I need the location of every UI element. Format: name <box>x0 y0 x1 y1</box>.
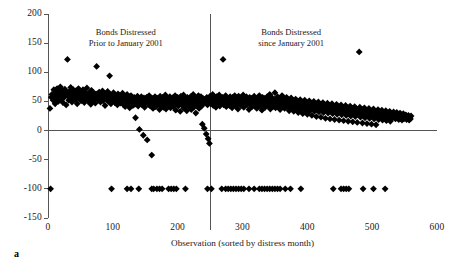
y-axis-tick-label: -100 <box>0 183 42 193</box>
y-axis-tick-label: 100 <box>0 66 42 76</box>
data-point <box>144 136 151 143</box>
y-axis-tick-label: 0 <box>0 125 42 135</box>
plot-annotation: Bonds DistressedPrior to January 2001 <box>66 27 186 49</box>
panel-letter: a <box>14 248 19 259</box>
data-point <box>330 185 337 192</box>
x-axis-tick-label: 0 <box>28 222 68 232</box>
data-point <box>135 185 142 192</box>
x-axis-title: Observation (sorted by distress month) <box>48 238 437 248</box>
y-axis-tick-label: 50 <box>0 95 42 105</box>
data-point <box>132 114 139 121</box>
y-axis-tick-label: -50 <box>0 154 42 164</box>
x-axis-tick-label: 200 <box>158 222 198 232</box>
data-point <box>382 185 389 192</box>
plot-annotation: Bonds Distressedsince January 2001 <box>231 27 351 49</box>
data-point <box>106 72 113 79</box>
data-point <box>136 126 143 133</box>
data-point <box>356 48 363 55</box>
data-point <box>108 185 115 192</box>
data-point <box>370 185 377 192</box>
data-point <box>148 152 155 159</box>
data-point <box>208 185 215 192</box>
x-axis-tick-label: 300 <box>223 222 263 232</box>
data-point <box>182 185 189 192</box>
data-point <box>128 185 135 192</box>
data-point <box>93 63 100 70</box>
y-axis-tick-label: 150 <box>0 37 42 47</box>
y-axis-tick-label: -150 <box>0 212 42 222</box>
y-axis-tick-label: 200 <box>0 8 42 18</box>
plot-annotation-line1: Bonds Distressed <box>231 27 351 38</box>
x-axis-tick-label: 500 <box>352 222 392 232</box>
data-point-group <box>47 48 415 192</box>
plot-annotation-line2: since January 2001 <box>231 38 351 49</box>
data-point <box>287 185 294 192</box>
x-axis-tick-label: 400 <box>287 222 327 232</box>
plot-annotation-line1: Bonds Distressed <box>66 27 186 38</box>
data-point <box>64 56 71 63</box>
data-point <box>220 56 227 63</box>
data-point <box>297 185 304 192</box>
data-point <box>360 185 367 192</box>
plot-annotation-line2: Prior to January 2001 <box>66 38 186 49</box>
x-axis-tick-label: 600 <box>417 222 449 232</box>
x-axis-tick-label: 100 <box>93 222 133 232</box>
data-point <box>140 132 147 139</box>
